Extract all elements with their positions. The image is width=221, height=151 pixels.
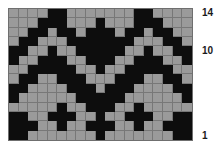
chart-cell	[144, 93, 154, 102]
chart-cell	[19, 18, 29, 27]
chart-cell	[38, 18, 48, 27]
chart-cell	[38, 37, 48, 46]
chart-cell	[38, 56, 48, 65]
chart-cell	[125, 93, 135, 102]
chart-cell	[86, 65, 96, 74]
chart-cell	[163, 74, 173, 83]
chart-cell	[48, 9, 58, 18]
chart-grid	[9, 9, 192, 140]
chart-cell	[9, 84, 19, 93]
chart-cell	[19, 56, 29, 65]
chart-cell	[173, 56, 183, 65]
chart-cell	[173, 28, 183, 37]
chart-cell	[57, 28, 67, 37]
chart-cell	[125, 84, 135, 93]
chart-cell	[19, 103, 29, 112]
chart-cell	[105, 131, 115, 140]
chart-cell	[86, 84, 96, 93]
chart-cell	[134, 9, 144, 18]
chart-cell	[125, 131, 135, 140]
chart-cell	[28, 131, 38, 140]
chart-cell	[28, 65, 38, 74]
chart-cell	[57, 74, 67, 83]
chart-cell	[115, 112, 125, 121]
chart-cell	[153, 65, 163, 74]
chart-cell	[28, 9, 38, 18]
chart-cell	[9, 121, 19, 130]
chart-cell	[76, 93, 86, 102]
chart-cell	[96, 56, 106, 65]
chart-cell	[86, 37, 96, 46]
chart-cell	[125, 112, 135, 121]
chart-cell	[182, 93, 192, 102]
chart-cell	[173, 131, 183, 140]
chart-cell	[57, 46, 67, 55]
chart-cell	[153, 28, 163, 37]
chart-cell	[57, 121, 67, 130]
chart-cell	[38, 103, 48, 112]
chart-cell	[57, 93, 67, 102]
chart-cell	[76, 103, 86, 112]
chart-cell	[134, 121, 144, 130]
chart-cell	[67, 84, 77, 93]
chart-cell	[76, 84, 86, 93]
chart-cell	[182, 28, 192, 37]
chart-cell	[86, 93, 96, 102]
chart-cell	[19, 112, 29, 121]
chart-cell	[173, 46, 183, 55]
chart-cell	[173, 9, 183, 18]
chart-cell	[125, 37, 135, 46]
chart-cell	[173, 84, 183, 93]
chart-cell	[38, 74, 48, 83]
chart-cell	[125, 103, 135, 112]
chart-cell	[28, 84, 38, 93]
chart-cell	[153, 131, 163, 140]
chart-cell	[48, 93, 58, 102]
chart-cell	[173, 103, 183, 112]
chart-cell	[163, 46, 173, 55]
chart-cell	[115, 65, 125, 74]
chart-cell	[28, 112, 38, 121]
chart-cell	[182, 46, 192, 55]
chart-cell	[144, 103, 154, 112]
chart-cell	[19, 84, 29, 93]
chart-cell	[48, 46, 58, 55]
chart-cell	[115, 84, 125, 93]
chart-cell	[57, 112, 67, 121]
chart-cell	[115, 9, 125, 18]
chart-cell	[105, 65, 115, 74]
chart-cell	[38, 46, 48, 55]
chart-cell	[163, 103, 173, 112]
chart-cell	[67, 9, 77, 18]
chart-cell	[28, 121, 38, 130]
chart-cell	[28, 46, 38, 55]
chart-cell	[28, 93, 38, 102]
chart-cell	[134, 18, 144, 27]
chart-cell	[153, 74, 163, 83]
chart-cell	[144, 18, 154, 27]
chart-cell	[105, 112, 115, 121]
chart-cell	[163, 28, 173, 37]
chart-cell	[163, 18, 173, 27]
chart-cell	[48, 65, 58, 74]
chart-cell	[115, 74, 125, 83]
chart-cell	[67, 46, 77, 55]
chart-cell	[67, 131, 77, 140]
chart-cell	[153, 121, 163, 130]
chart-cell	[76, 56, 86, 65]
chart-cell	[182, 131, 192, 140]
chart-cell	[76, 65, 86, 74]
row-label-1: 1	[202, 131, 208, 141]
chart-cell	[76, 131, 86, 140]
chart-cell	[163, 93, 173, 102]
chart-cell	[182, 9, 192, 18]
chart-cell	[96, 112, 106, 121]
chart-cell	[144, 56, 154, 65]
chart-cell	[28, 28, 38, 37]
chart-cell	[48, 84, 58, 93]
chart-cell	[105, 28, 115, 37]
chart-cell	[173, 112, 183, 121]
chart-cell	[67, 18, 77, 27]
chart-cell	[115, 131, 125, 140]
chart-cell	[163, 131, 173, 140]
